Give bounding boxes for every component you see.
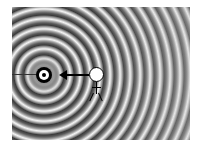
observer-body — [96, 82, 97, 94]
arrow-shaft — [66, 74, 89, 76]
source-inner-ring — [39, 70, 49, 80]
arrow-left-icon — [59, 70, 67, 80]
source-center-dot — [42, 73, 46, 77]
wave-field — [12, 7, 190, 140]
observer-arms — [92, 87, 101, 88]
wave-source-icon — [36, 67, 52, 83]
observer-head — [89, 67, 104, 82]
